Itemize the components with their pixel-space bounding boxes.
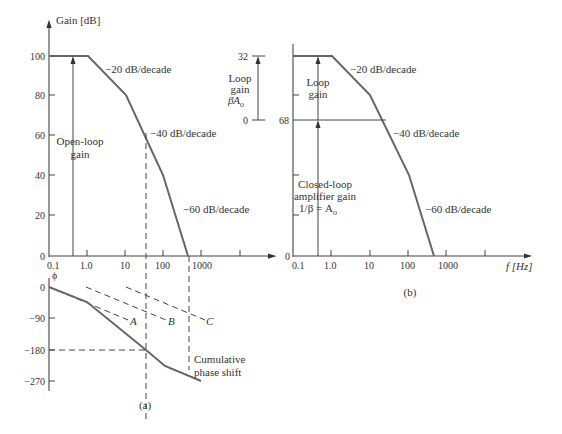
- svg-text:80: 80: [35, 90, 45, 101]
- svg-text:0: 0: [40, 251, 45, 262]
- loop-gain-label: Loop: [306, 76, 330, 88]
- svg-text:gain: gain: [309, 88, 328, 100]
- svg-text:0: 0: [243, 115, 248, 126]
- caption-a: (a): [139, 399, 152, 412]
- cumulative-phase-curve: [49, 287, 201, 381]
- phase-axis-label: ϕ: [52, 270, 57, 281]
- svg-text:1.0: 1.0: [324, 260, 337, 271]
- panel-a-phase-plot: ϕ 0 −90 −180 −270 A B C Cumulative phase…: [24, 270, 245, 412]
- svg-text:gain: gain: [71, 148, 90, 160]
- svg-text:32: 32: [238, 51, 248, 62]
- svg-text:0: 0: [285, 251, 290, 262]
- svg-text:1.0: 1.0: [80, 260, 93, 271]
- svg-text:60: 60: [35, 130, 45, 141]
- svg-text:amplifier gain: amplifier gain: [294, 190, 357, 202]
- svg-text:100: 100: [30, 51, 45, 62]
- slope-label-60: −60 dB/decade: [183, 203, 249, 215]
- svg-text:phase shift: phase shift: [194, 366, 241, 378]
- svg-text:1000: 1000: [438, 260, 458, 271]
- panel-b-x-axis-label: f [Hz]: [506, 260, 533, 272]
- svg-text:10: 10: [364, 260, 374, 271]
- open-loop-label: Open-loop: [56, 135, 104, 147]
- closed-loop-label: Closed-loop: [298, 178, 352, 190]
- b-slope-label-20: −20 dB/decade: [350, 63, 416, 75]
- svg-text:−90: −90: [29, 313, 45, 324]
- svg-text:−180: −180: [24, 345, 45, 356]
- svg-text:0: 0: [40, 282, 45, 293]
- svg-text:20: 20: [35, 210, 45, 221]
- pole-c-label: C: [206, 315, 214, 327]
- svg-text:−270: −270: [24, 376, 45, 387]
- svg-text:100: 100: [155, 260, 170, 271]
- gain-y-ticks: 100 80 60 40 20 0: [30, 51, 55, 262]
- b-slope-label-60: −60 dB/decade: [425, 203, 491, 215]
- pole-a-label: A: [129, 315, 137, 327]
- slope-label-20: −20 dB/decade: [105, 63, 171, 75]
- svg-text:68: 68: [279, 115, 289, 126]
- slope-label-40: −40 dB/decade: [150, 127, 216, 139]
- svg-text:100: 100: [400, 260, 415, 271]
- gain-x-ticks: 0.1 1.0 10 100 1000: [47, 250, 240, 271]
- svg-text:0.1: 0.1: [292, 260, 305, 271]
- svg-text:1000: 1000: [192, 260, 212, 271]
- svg-text:10: 10: [120, 260, 130, 271]
- pole-b-label: B: [168, 315, 175, 327]
- cumulative-phase-label: Cumulative: [194, 353, 245, 365]
- gain-axis-label: Gain [dB]: [56, 14, 100, 26]
- svg-text:βAo: βAo: [227, 94, 244, 109]
- loop-gain-scale: 32 0 Loop gain βAo: [227, 51, 265, 126]
- b-slope-label-40: −40 dB/decade: [393, 127, 459, 139]
- bode-diagram: Gain [dB] 100 80 60 40 20 0 0.1 1.0 10 1…: [0, 0, 562, 434]
- pole-b-phase-line: [86, 287, 166, 320]
- panel-b-plot: 68 0 0.1 1.0 10 100 1000 f [Hz] Loop gai…: [279, 44, 533, 299]
- pole-c-phase-line: [126, 287, 205, 320]
- caption-b: (b): [404, 286, 417, 299]
- svg-text:40: 40: [35, 170, 45, 181]
